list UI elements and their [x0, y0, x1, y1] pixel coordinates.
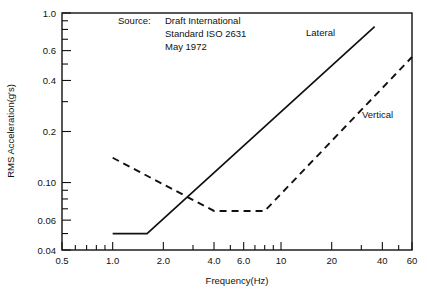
y-axis-title: RMS Acceleration(g's)	[5, 84, 16, 178]
y-axis-tick-label: 0.04	[38, 245, 57, 256]
x-axis-tick-label: 4.0	[207, 255, 220, 266]
x-axis-tick-label: 40	[377, 255, 388, 266]
y-axis-tick-label: 0.10	[38, 177, 57, 188]
y-axis-tick-label: 1.0	[43, 8, 56, 19]
source-note-label: Source:	[118, 15, 151, 26]
source-note-line3: May 1972	[165, 41, 207, 52]
x-axis-tick-label: 1.0	[106, 255, 119, 266]
x-axis-tick-label: 2.0	[157, 255, 170, 266]
x-axis-title: Frequency(Hz)	[206, 275, 269, 286]
series-label-vertical: Vertical	[362, 109, 393, 120]
y-axis-tick-label: 0.4	[43, 75, 56, 86]
source-note-line1: Draft International	[165, 15, 241, 26]
rms-acceleration-vs-frequency-chart: 0.040.060.100.20.40.61.0 0.51.02.04.06.0…	[0, 0, 427, 291]
source-note-line2: Standard ISO 2631	[165, 28, 246, 39]
x-axis-tick-label: 10	[276, 255, 287, 266]
x-axis-tick-label: 0.5	[55, 255, 68, 266]
x-axis-tick-label: 60	[407, 255, 418, 266]
series-label-lateral: Lateral	[306, 27, 335, 38]
y-axis-tick-label: 0.06	[38, 215, 57, 226]
x-axis-tick-label: 20	[326, 255, 337, 266]
y-axis-tick-label: 0.2	[43, 126, 56, 137]
chart-container: 0.040.060.100.20.40.61.0 0.51.02.04.06.0…	[0, 0, 427, 291]
x-axis-tick-label: 6.0	[237, 255, 250, 266]
y-axis-tick-label: 0.6	[43, 45, 56, 56]
